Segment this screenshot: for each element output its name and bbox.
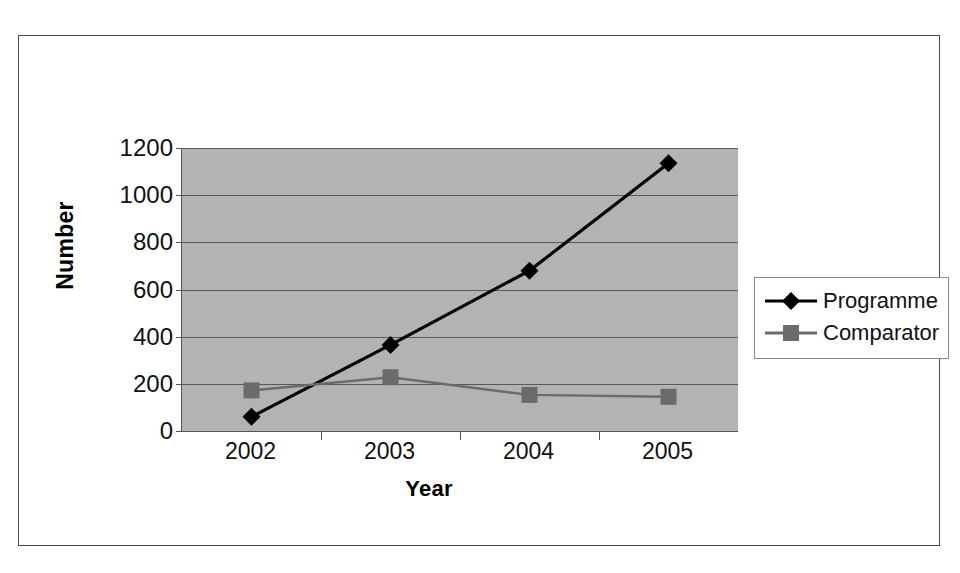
chart-legend: Programme Comparator xyxy=(754,277,949,359)
y-tick-mark xyxy=(176,290,182,291)
square-marker-icon xyxy=(763,321,819,345)
figure-frame: Number 020040060080010001200 20022003200… xyxy=(18,35,940,546)
series-line xyxy=(252,163,669,417)
x-tick-mark xyxy=(321,432,322,440)
data-point-marker xyxy=(383,369,399,385)
y-tick-mark xyxy=(176,148,182,149)
series-layer xyxy=(182,148,738,431)
y-axis-title: Number xyxy=(52,176,79,316)
diamond-marker-icon xyxy=(763,289,819,313)
data-point-marker xyxy=(382,336,400,354)
y-tick-label: 1000 xyxy=(87,183,173,207)
x-tick-label: 2002 xyxy=(196,440,306,463)
x-tick-mark xyxy=(460,432,461,440)
x-axis-tick-labels: 2002200320042005 xyxy=(181,440,737,472)
legend-label-comparator: Comparator xyxy=(823,320,939,346)
x-tick-label: 2005 xyxy=(613,440,723,463)
legend-label-programme: Programme xyxy=(823,288,938,314)
data-point-marker xyxy=(243,408,261,426)
y-tick-label: 1200 xyxy=(87,136,173,160)
y-tick-label: 0 xyxy=(87,419,173,443)
x-tick-label: 2004 xyxy=(474,440,584,463)
y-tick-mark xyxy=(176,337,182,338)
y-axis-tick-labels: 020040060080010001200 xyxy=(77,148,173,431)
plot-area xyxy=(181,148,738,432)
x-tick-label: 2003 xyxy=(335,440,445,463)
series-line xyxy=(252,377,669,397)
data-point-marker xyxy=(244,382,260,398)
y-tick-mark xyxy=(176,242,182,243)
legend-item-programme[interactable]: Programme xyxy=(763,285,940,317)
x-tick-mark xyxy=(599,432,600,440)
data-point-marker xyxy=(661,389,677,405)
y-tick-mark xyxy=(176,195,182,196)
y-tick-mark xyxy=(176,431,182,432)
y-tick-label: 800 xyxy=(87,230,173,254)
data-point-marker xyxy=(522,387,538,403)
line-chart: Number 020040060080010001200 20022003200… xyxy=(19,36,941,547)
y-tick-label: 400 xyxy=(87,325,173,349)
x-axis-title: Year xyxy=(139,476,719,502)
legend-item-comparator[interactable]: Comparator xyxy=(763,317,940,349)
y-tick-mark xyxy=(176,384,182,385)
y-tick-label: 600 xyxy=(87,278,173,302)
y-tick-label: 200 xyxy=(87,372,173,396)
